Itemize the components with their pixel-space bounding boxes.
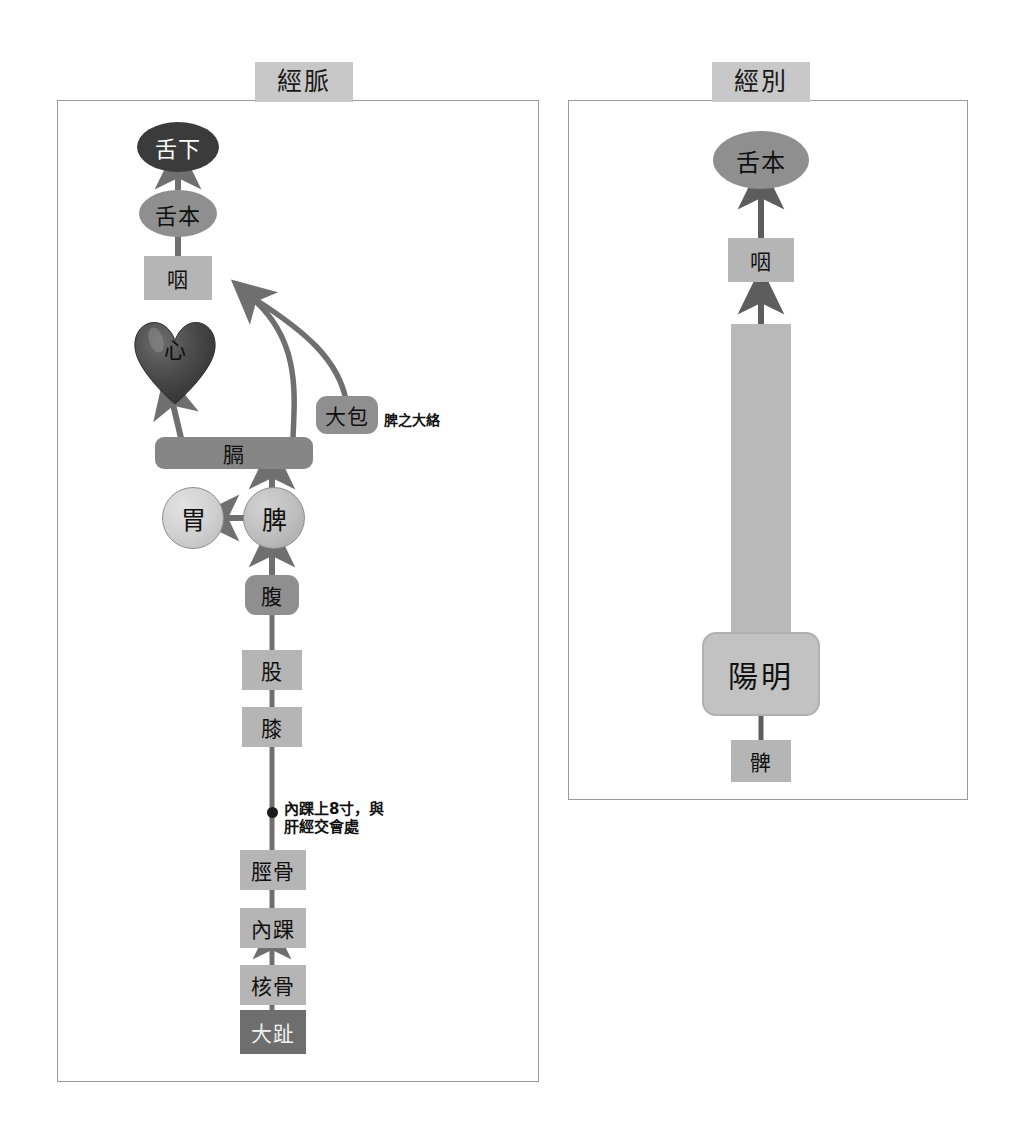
node-spleen[interactable]: 脾 bbox=[243, 487, 305, 549]
annotation-dabao-note: 脾之大絡 bbox=[384, 412, 514, 429]
node-tongue-root[interactable]: 舌本 bbox=[139, 190, 217, 237]
node-medial-malleolus[interactable]: 內踝 bbox=[240, 908, 306, 948]
diagram-canvas: 經脈 經別 bbox=[0, 0, 1030, 1140]
node-hip[interactable]: 髀 bbox=[731, 740, 791, 782]
crossing-point-dot bbox=[267, 807, 278, 818]
node-divergent-throat[interactable]: 咽 bbox=[728, 238, 794, 282]
node-stomach[interactable]: 胃 bbox=[162, 487, 224, 549]
node-tibia[interactable]: 脛骨 bbox=[240, 850, 306, 890]
node-diaphragm[interactable]: 膈 bbox=[155, 437, 313, 469]
node-big-toe[interactable]: 大趾 bbox=[240, 1010, 306, 1054]
node-knee[interactable]: 膝 bbox=[242, 707, 302, 747]
node-nuclear-bone[interactable]: 核骨 bbox=[240, 965, 306, 1005]
node-abdomen[interactable]: 腹 bbox=[245, 575, 299, 615]
node-thigh[interactable]: 股 bbox=[242, 650, 302, 690]
node-dabao[interactable]: 大包 bbox=[316, 396, 378, 434]
node-heart[interactable]: 心 bbox=[152, 330, 198, 366]
node-tongue-under[interactable]: 舌下 bbox=[137, 122, 219, 172]
annotation-crossing-point: 內踝上8寸，與 肝經交會處 bbox=[284, 800, 414, 837]
panel-meridian-title: 經脈 bbox=[255, 62, 353, 102]
node-divergent-tongue-root[interactable]: 舌本 bbox=[713, 131, 809, 189]
divergent-channel-bar bbox=[731, 324, 791, 632]
node-throat[interactable]: 咽 bbox=[144, 256, 212, 300]
node-yangming[interactable]: 陽明 bbox=[702, 632, 820, 716]
panel-divergent-title: 經別 bbox=[712, 62, 810, 102]
